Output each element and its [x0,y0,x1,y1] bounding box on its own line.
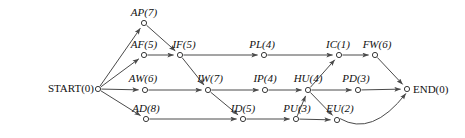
node-pd[interactable] [355,87,360,92]
node-label-if: IF(5) [171,38,196,51]
node-end[interactable] [404,86,409,91]
node-if[interactable] [177,52,182,57]
label-layer: START(0)AP(7)AF(5)IF(5)PL(4)IC(1)FW(6)AW… [48,6,449,115]
node-label-iw: IW(7) [196,72,223,85]
edge-fw-to-end [377,57,402,84]
node-label-ip: IP(4) [252,72,277,85]
network-graph-canvas: START(0)AP(7)AF(5)IF(5)PL(4)IC(1)FW(6)AW… [0,0,465,138]
node-label-id: ID(5) [230,102,256,115]
node-label-af: AF(5) [130,38,158,51]
node-label-pd: PD(3) [341,72,370,85]
node-pl[interactable] [261,52,266,57]
node-ad[interactable] [143,116,148,121]
node-af[interactable] [141,52,146,57]
node-label-pu: PU(3) [282,102,311,115]
edge-pu-to-eu [299,119,330,120]
node-label-aw: AW(6) [128,72,158,85]
node-label-end: END(0) [413,83,449,96]
node-iw[interactable] [205,87,210,92]
node-id[interactable] [240,116,245,121]
activity-network-diagram: START(0)AP(7)AF(5)IF(5)PL(4)IC(1)FW(6)AW… [0,0,465,138]
node-ic[interactable] [336,52,341,57]
node-eu[interactable] [334,117,339,122]
node-label-pl: PL(4) [248,38,275,51]
node-label-ic: IC(1) [325,38,350,51]
node-label-hu: HU(4) [293,72,323,85]
node-pu[interactable] [293,116,298,121]
node-label-eu: EU(2) [325,102,354,115]
edge-pd-to-end [361,89,400,90]
node-start[interactable] [95,86,100,91]
node-hu[interactable] [305,87,310,92]
node-label-start: START(0) [48,82,94,95]
edge-start-to-aw [101,89,138,90]
node-fw[interactable] [372,52,377,57]
node-ap[interactable] [141,20,146,25]
node-label-ad: AD(8) [131,102,160,115]
node-label-fw: FW(6) [362,38,392,51]
node-aw[interactable] [142,87,147,92]
node-ip[interactable] [262,87,267,92]
node-label-ap: AP(7) [130,6,158,19]
